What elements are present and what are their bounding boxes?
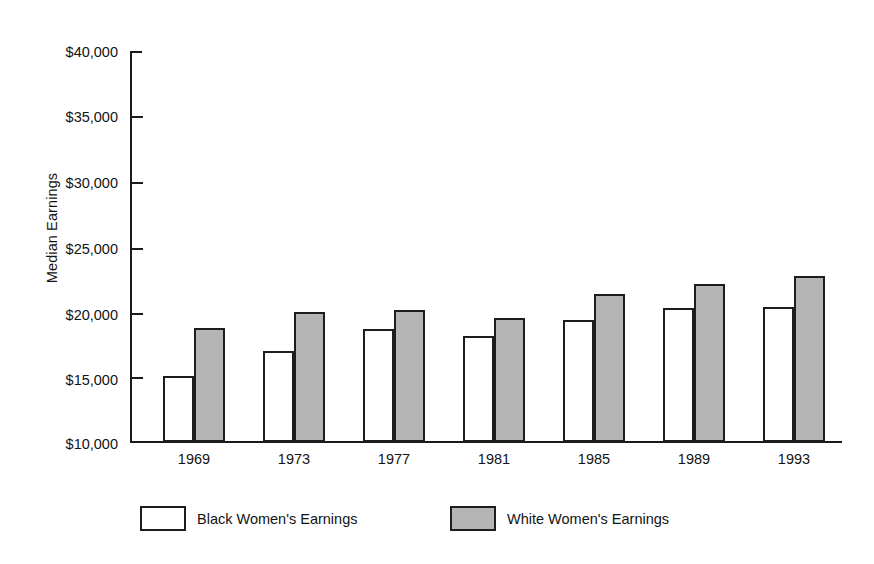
legend-item-white-women[interactable]: White Women's Earnings (450, 506, 669, 531)
bar-1969-white-women (194, 328, 225, 442)
x-tick-label: 1973 (254, 451, 334, 467)
x-tick-label: 1985 (554, 451, 634, 467)
bar-1981-black-women (463, 336, 494, 442)
legend-swatch-white-fill-icon (140, 506, 186, 531)
legend-label: White Women's Earnings (507, 511, 669, 527)
y-axis-tick (132, 248, 143, 250)
x-tick-label: 1989 (654, 451, 734, 467)
y-axis-top-cap (130, 51, 142, 53)
bar-1985-white-women (594, 294, 625, 442)
x-tick-label: 1981 (454, 451, 534, 467)
x-tick-label: 1977 (354, 451, 434, 467)
x-tick-label: 1969 (154, 451, 234, 467)
x-tick-label: 1993 (754, 451, 834, 467)
bar-1993-black-women (763, 307, 794, 442)
bar-1977-white-women (394, 310, 425, 442)
bar-1973-black-women (263, 351, 294, 442)
y-tick-label: $35,000 (26, 109, 118, 125)
y-axis-line (130, 51, 132, 443)
bar-1985-black-women (563, 320, 594, 442)
legend-label: Black Women's Earnings (197, 511, 357, 527)
bar-1989-black-women (663, 308, 694, 442)
bar-1989-white-women (694, 284, 725, 442)
legend-swatch-gray-fill-icon (450, 506, 496, 531)
y-tick-label: $30,000 (26, 175, 118, 191)
y-tick-label: $40,000 (26, 44, 118, 60)
y-axis-tick (132, 377, 143, 379)
y-axis-tick (132, 116, 143, 118)
bar-1993-white-women (794, 276, 825, 442)
y-tick-label: $10,000 (26, 436, 118, 452)
chart-legend: Black Women's Earnings White Women's Ear… (0, 498, 874, 542)
bar-1969-black-women (163, 376, 194, 442)
y-axis-tick (132, 182, 143, 184)
y-axis-tick (132, 313, 143, 315)
y-tick-label: $25,000 (26, 241, 118, 257)
y-tick-label: $15,000 (26, 372, 118, 388)
y-tick-label: $20,000 (26, 307, 118, 323)
legend-item-black-women[interactable]: Black Women's Earnings (140, 506, 357, 531)
bar-1977-black-women (363, 329, 394, 442)
bar-1973-white-women (294, 312, 325, 442)
bar-chart: Median Earnings $40,000 $35,000 $30,000 … (0, 0, 874, 564)
y-axis-tick-labels: $40,000 $35,000 $30,000 $25,000 $20,000 … (26, 0, 118, 564)
bar-1981-white-women (494, 318, 525, 443)
